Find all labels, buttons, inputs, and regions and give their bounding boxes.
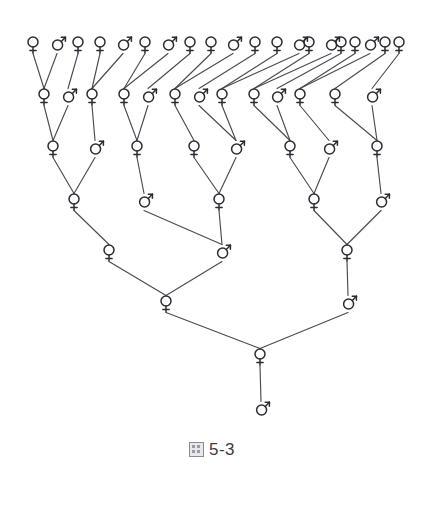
pedigree-edge	[377, 158, 381, 194]
pedigree-edge	[219, 211, 222, 245]
female-symbol	[336, 37, 346, 53]
pedigree-edge	[314, 211, 347, 245]
female-symbol	[189, 141, 199, 157]
female-symbol	[214, 194, 224, 210]
pedigree-edge	[124, 54, 168, 89]
pedigree-edge	[74, 158, 95, 194]
pedigree-edge	[199, 54, 255, 89]
female-symbol	[342, 245, 352, 261]
male-symbol	[366, 37, 379, 50]
female-symbol	[285, 141, 295, 157]
female-symbol	[304, 37, 314, 53]
pedigree-edge	[347, 262, 348, 296]
pedigree-edge	[260, 313, 348, 349]
male-symbol	[140, 194, 153, 207]
pedigree-edge	[74, 211, 109, 245]
female-symbol	[206, 37, 216, 53]
female-symbol	[119, 89, 129, 105]
pedigree-edge	[222, 106, 236, 141]
pedigree-edge	[175, 54, 211, 89]
male-symbol	[377, 194, 390, 207]
figure-caption-glyph-icon	[189, 442, 204, 457]
pedigree-tree-svg	[0, 0, 424, 505]
female-symbol	[250, 37, 260, 53]
female-symbol	[249, 89, 259, 105]
male-symbol	[218, 245, 231, 258]
male-symbol	[325, 141, 338, 154]
female-symbol	[185, 37, 195, 53]
pedigree-edge	[254, 106, 290, 141]
female-symbol	[170, 89, 180, 105]
female-symbol	[87, 89, 97, 105]
pedigree-edge	[372, 106, 377, 141]
female-symbol	[39, 89, 49, 105]
female-symbol	[140, 37, 150, 53]
male-symbol	[344, 296, 357, 309]
pedigree-edge	[53, 106, 68, 141]
pedigree-edge	[254, 54, 331, 89]
pedigree-edge	[166, 313, 260, 349]
edge-layer	[33, 54, 399, 402]
female-symbol	[48, 141, 58, 157]
male-symbol	[257, 402, 270, 415]
male-symbol	[64, 89, 77, 102]
pedigree-edge	[68, 54, 78, 89]
pedigree-edge	[33, 54, 44, 89]
pedigree-edge	[53, 158, 74, 194]
female-symbol	[330, 89, 340, 105]
pedigree-edge	[260, 366, 261, 402]
female-symbol	[132, 141, 142, 157]
pedigree-edge	[314, 158, 329, 194]
female-symbol	[161, 296, 171, 312]
pedigree-edge	[347, 211, 381, 245]
pedigree-edge	[137, 106, 148, 141]
pedigree-edge	[137, 158, 144, 194]
pedigree-edge	[44, 106, 53, 141]
female-symbol	[309, 194, 319, 210]
female-symbol	[350, 37, 360, 53]
figure-caption-number: 5-3	[209, 440, 235, 459]
pedigree-edge	[92, 106, 95, 141]
female-symbol	[272, 37, 282, 53]
pedigree-edge	[300, 106, 329, 141]
female-symbol	[380, 37, 390, 53]
pedigree-edge	[175, 106, 194, 141]
female-symbol	[394, 37, 404, 53]
female-symbol	[69, 194, 79, 210]
pedigree-edge	[199, 106, 236, 141]
female-symbol	[28, 37, 38, 53]
female-symbol	[73, 37, 83, 53]
figure-caption: 5-3	[0, 440, 424, 460]
pedigree-figure: 5-3	[0, 0, 424, 505]
pedigree-edge	[219, 158, 236, 194]
male-symbol	[232, 141, 245, 154]
male-symbol	[119, 37, 132, 50]
male-symbol	[273, 89, 286, 102]
female-symbol	[104, 245, 114, 261]
pedigree-edge	[372, 54, 399, 89]
male-symbol	[91, 141, 104, 154]
node-layer	[28, 37, 404, 415]
pedigree-edge	[254, 54, 309, 89]
female-symbol	[372, 141, 382, 157]
female-symbol	[217, 89, 227, 105]
pedigree-edge	[44, 54, 57, 89]
pedigree-edge	[290, 158, 314, 194]
male-symbol	[368, 89, 381, 102]
pedigree-edge	[92, 54, 123, 89]
pedigree-edge	[124, 54, 145, 89]
pedigree-edge	[109, 262, 166, 296]
female-symbol	[95, 37, 105, 53]
female-symbol	[295, 89, 305, 105]
pedigree-edge	[194, 158, 219, 194]
male-symbol	[164, 37, 177, 50]
male-symbol	[53, 37, 66, 50]
pedigree-edge	[144, 211, 222, 245]
pedigree-edge	[124, 106, 137, 141]
pedigree-edge	[222, 54, 277, 89]
pedigree-edge	[277, 106, 290, 141]
pedigree-edge	[335, 106, 377, 141]
male-symbol	[144, 89, 157, 102]
male-symbol	[195, 89, 208, 102]
pedigree-edge	[166, 262, 222, 296]
